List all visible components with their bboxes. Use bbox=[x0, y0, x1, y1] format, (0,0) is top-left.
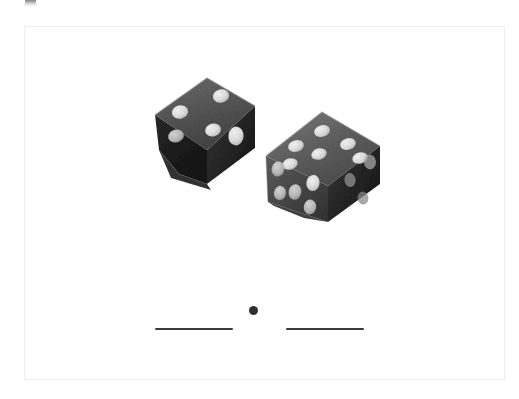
answer-row bbox=[150, 300, 370, 340]
decimal-point bbox=[249, 306, 258, 315]
answer-blank-fraction[interactable] bbox=[286, 328, 364, 330]
cropped-edge-mark-shadow bbox=[24, 4, 37, 7]
page-canvas bbox=[0, 0, 519, 399]
answer-blank-whole[interactable] bbox=[155, 328, 233, 330]
